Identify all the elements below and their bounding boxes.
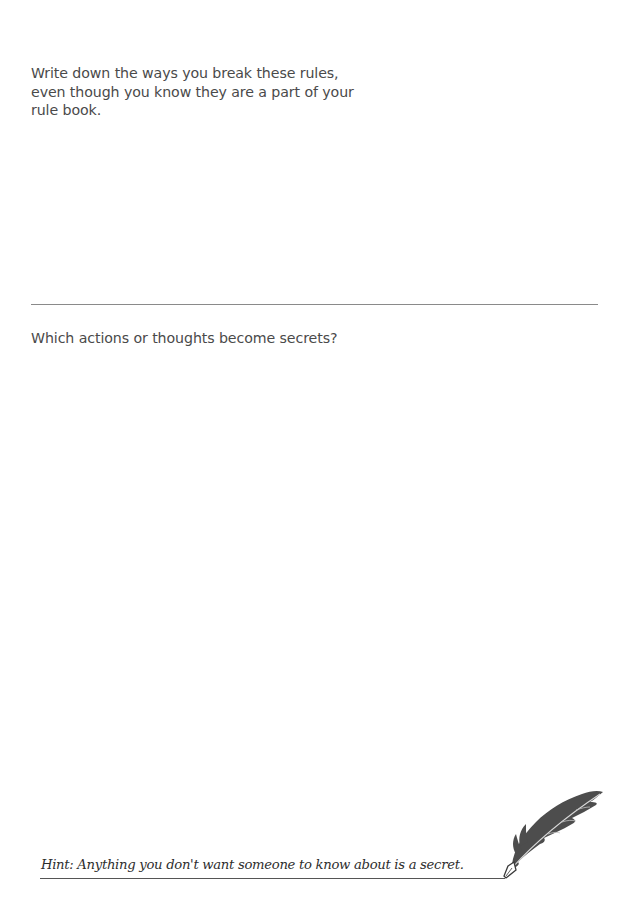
hint-text: Hint: Anything you don't want someone to… bbox=[41, 857, 464, 872]
section-1-writing-area[interactable] bbox=[31, 124, 598, 296]
hint-underline bbox=[40, 878, 505, 879]
section-2-prompt: Which actions or thoughts become secrets… bbox=[31, 329, 431, 348]
section-2-writing-area[interactable] bbox=[31, 356, 598, 836]
quill-feather-icon bbox=[500, 788, 605, 880]
section-divider bbox=[31, 304, 598, 305]
section-1-prompt: Write down the ways you break these rule… bbox=[31, 64, 361, 120]
